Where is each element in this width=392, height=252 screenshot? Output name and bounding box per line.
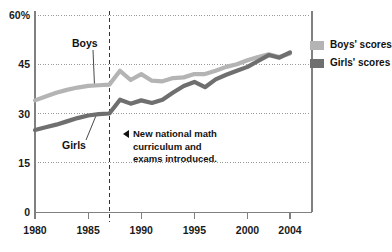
legend-swatch-boys: [310, 41, 324, 50]
y-tick-label: 30: [0, 109, 30, 120]
y-tick-label: 0: [0, 207, 30, 218]
label-leader-lines: [86, 50, 97, 140]
annotation-line-3: exams introduced.: [133, 153, 245, 166]
annotation-arrow-icon: [123, 130, 129, 138]
legend: Boys' scores Girls' scores: [310, 40, 392, 76]
x-tick-label: 2000: [228, 225, 268, 236]
y-tick-label: 45: [0, 59, 30, 70]
x-tick-label: 1980: [15, 225, 55, 236]
x-tick-label: 2004: [270, 225, 310, 236]
x-tick-label: 1985: [68, 225, 108, 236]
y-tick-label: 15: [0, 158, 30, 169]
annotation-text: New national math curriculum and exams i…: [133, 128, 245, 166]
series-label-boys: Boys: [72, 38, 98, 49]
annotation-line-2: curriculum and: [133, 141, 245, 154]
series-label-girls: Girls: [62, 140, 86, 151]
legend-item-girls: Girls' scores: [310, 58, 392, 68]
x-tick-label: 1995: [174, 225, 214, 236]
legend-swatch-girls: [310, 59, 324, 68]
annotation-line-1: New national math: [133, 128, 245, 141]
y-tick-label: 60%: [0, 10, 30, 21]
x-axis-ticks: [35, 212, 290, 219]
legend-label-boys: Boys' scores: [330, 40, 392, 50]
x-tick-label: 1990: [121, 225, 161, 236]
legend-label-girls: Girls' scores: [330, 58, 390, 68]
legend-item-boys: Boys' scores: [310, 40, 392, 50]
